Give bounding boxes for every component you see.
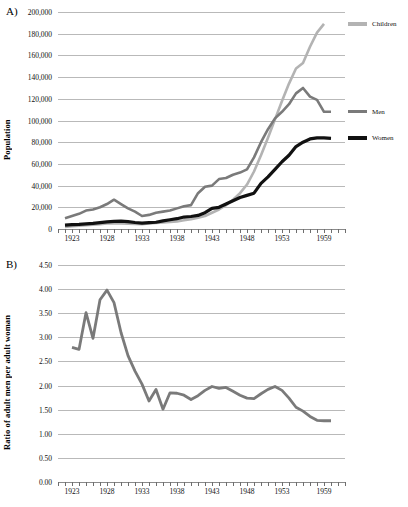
x-axis-tick [233, 229, 234, 233]
ytick-label: 4.00 [39, 285, 52, 294]
panel-a: A) Population 020,00040,00060,00080,0001… [0, 0, 408, 250]
x-axis-tick [303, 229, 304, 233]
ytick-label: 40,000 [31, 181, 52, 190]
x-axis-tick [254, 482, 255, 486]
ytick-label: 1.00 [39, 429, 52, 438]
x-axis-tick [72, 482, 73, 486]
xtick-label: 1953 [275, 234, 290, 243]
ytick-label: 140,000 [28, 73, 52, 82]
x-axis-tick [338, 229, 339, 233]
x-axis-tick [86, 482, 87, 486]
ytick-label: 0.00 [39, 478, 52, 487]
x-axis-tick [170, 229, 171, 233]
xtick-label: 1928 [100, 234, 115, 243]
ytick-label: 20,000 [31, 203, 52, 212]
x-axis-tick [79, 482, 80, 486]
ytick-label: 200,000 [28, 8, 52, 17]
x-axis-tick [198, 229, 199, 233]
x-axis-tick [296, 229, 297, 233]
ytick-label: 120,000 [28, 94, 52, 103]
panel-b-yaxis-title: Ratio of adult men per adult woman [2, 295, 12, 470]
x-axis-tick [149, 482, 150, 486]
x-axis-tick [128, 482, 129, 486]
ytick-label: 80,000 [31, 138, 52, 147]
x-axis-tick [282, 229, 283, 233]
x-axis-tick [233, 482, 234, 486]
x-axis-tick [100, 482, 101, 486]
x-axis-tick [142, 229, 143, 233]
x-axis-tick [100, 229, 101, 233]
xtick-label: 1923 [65, 234, 80, 243]
x-axis-tick [86, 229, 87, 233]
series-line-children [65, 24, 324, 227]
x-axis-tick [121, 229, 122, 233]
ytick-label: 1.50 [39, 405, 52, 414]
x-axis-tick [114, 482, 115, 486]
xtick-label: 1928 [100, 487, 115, 496]
panel-a-plot-area: 020,00040,00060,00080,000100,000120,0001… [58, 12, 345, 229]
panel-b-label: B) [6, 258, 17, 270]
legend-item-men: Men [348, 108, 385, 116]
x-axis-tick [177, 482, 178, 486]
ytick-label: 0 [48, 225, 52, 234]
x-axis-tick [142, 482, 143, 486]
x-axis-tick [254, 229, 255, 233]
x-axis-tick [219, 229, 220, 233]
series-line-women [65, 138, 331, 225]
xtick-label: 1948 [240, 234, 255, 243]
x-axis-tick [219, 482, 220, 486]
x-axis-tick [156, 482, 157, 486]
x-axis-tick [79, 229, 80, 233]
xtick-label: 1938 [170, 487, 185, 496]
x-axis-tick [135, 229, 136, 233]
x-axis-tick [268, 482, 269, 486]
x-axis-tick [275, 229, 276, 233]
x-axis-tick [310, 482, 311, 486]
x-axis-tick [247, 229, 248, 233]
xtick-label: 1943 [205, 487, 220, 496]
x-axis-tick [93, 229, 94, 233]
x-axis-tick [198, 482, 199, 486]
ytick-label: 180,000 [28, 29, 52, 38]
x-axis-tick [331, 229, 332, 233]
x-axis-tick [261, 482, 262, 486]
x-axis-line [58, 482, 345, 483]
xtick-label: 1953 [275, 487, 290, 496]
ytick-label: 160,000 [28, 51, 52, 60]
x-axis-tick [226, 229, 227, 233]
x-axis-tick [184, 229, 185, 233]
x-axis-tick [72, 229, 73, 233]
panel-b-series-lines [58, 265, 345, 482]
x-axis-tick [163, 482, 164, 486]
x-axis-tick [135, 482, 136, 486]
x-axis-tick [107, 482, 108, 486]
x-axis-tick [58, 482, 59, 486]
x-axis-tick [240, 482, 241, 486]
legend-label: Children [372, 20, 397, 28]
xtick-label: 1948 [240, 487, 255, 496]
x-axis-tick [170, 482, 171, 486]
x-axis-tick [226, 482, 227, 486]
legend-label: Women [372, 134, 394, 142]
x-axis-tick [324, 482, 325, 486]
x-axis-tick [128, 229, 129, 233]
x-axis-tick [240, 229, 241, 233]
ytick-label: 60,000 [31, 159, 52, 168]
x-axis-tick [184, 482, 185, 486]
x-axis-tick [303, 482, 304, 486]
x-axis-tick [338, 482, 339, 486]
legend-item-children: Children [348, 20, 397, 28]
xtick-label: 1933 [135, 487, 150, 496]
x-axis-tick [345, 482, 346, 486]
legend-swatch [348, 136, 367, 140]
x-axis-tick [205, 482, 206, 486]
ytick-label: 0.50 [39, 453, 52, 462]
x-axis-tick [191, 229, 192, 233]
x-axis-tick [93, 482, 94, 486]
x-axis-tick [268, 229, 269, 233]
ytick-label: 3.00 [39, 333, 52, 342]
x-axis-tick [212, 482, 213, 486]
panel-b-plot-area: 0.000.501.001.502.002.503.003.504.004.50… [58, 265, 345, 482]
ytick-label: 2.00 [39, 381, 52, 390]
x-axis-tick [324, 229, 325, 233]
